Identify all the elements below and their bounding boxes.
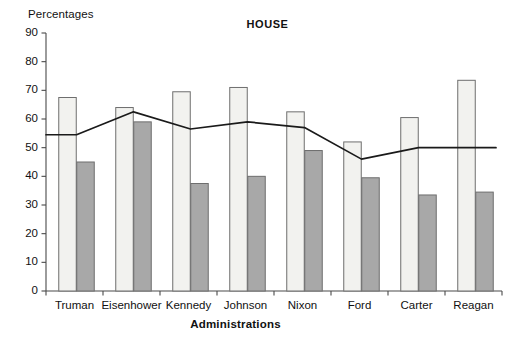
y-tick-80: 80 (12, 56, 38, 68)
y-tick-60: 60 (12, 113, 38, 125)
bar-dark-johnson (248, 176, 266, 291)
bar-dark-nixon (305, 151, 323, 291)
y-tick-10: 10 (12, 256, 38, 268)
bar-light-eisenhower (116, 108, 134, 291)
y-tick-40: 40 (12, 170, 38, 182)
chart-title: HOUSE (8, 18, 519, 30)
trend-line-path (46, 112, 496, 159)
x-axis-label: Administrations (0, 318, 495, 330)
bar-dark-eisenhower (134, 122, 152, 291)
bar-light-carter (401, 118, 419, 291)
y-tick-0: 0 (12, 285, 38, 297)
bar-light-nixon (287, 112, 305, 291)
y-tick-70: 70 (12, 84, 38, 96)
bar-dark-truman (77, 162, 95, 291)
bar-dark-ford (362, 178, 380, 291)
plot-area (0, 0, 519, 341)
bar-light-kennedy (173, 92, 191, 291)
bar-light-truman (59, 98, 77, 292)
bar-light-johnson (230, 87, 248, 291)
x-tick-reagan: Reagan (429, 300, 519, 312)
bar-light-reagan (458, 80, 476, 291)
y-tick-30: 30 (12, 199, 38, 211)
light-bar-series (59, 80, 476, 291)
y-tick-20: 20 (12, 228, 38, 240)
y-tick-50: 50 (12, 142, 38, 154)
bar-dark-reagan (476, 192, 494, 291)
bar-light-ford (344, 142, 362, 291)
chart-figure: Percentages HOUSE Administrations 010203… (0, 0, 519, 341)
y-tick-90: 90 (12, 27, 38, 39)
bar-dark-kennedy (191, 184, 209, 292)
trend-line-series (46, 112, 496, 159)
bar-dark-carter (419, 195, 437, 291)
